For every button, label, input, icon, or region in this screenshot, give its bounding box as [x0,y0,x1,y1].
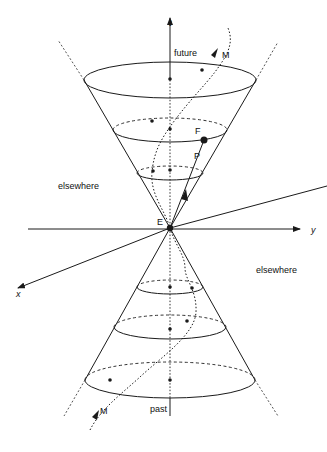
future-cone-left-edge [84,80,170,228]
worldline-bottom-arrow-icon [92,410,99,420]
dot [168,77,172,81]
dot [168,127,172,131]
event-e-label: E [157,217,163,227]
worldline-top-label: M [222,50,230,60]
x-axis [18,228,170,288]
past-label: past [150,404,168,414]
y-axis-label: y [310,225,316,235]
event-e-dot [167,225,173,231]
cone-extension-upper-right [256,42,278,80]
dot [168,378,172,382]
cone-extension-lower-right [255,380,278,416]
dot [185,319,189,323]
path-p-label: P [194,151,200,161]
dot [200,68,204,72]
x-axis-label: x [15,289,21,299]
dot [168,285,172,289]
dot [150,119,154,123]
past-cone-base-front [85,380,255,398]
point-f-dot [201,137,208,144]
x-axis-back [170,186,327,228]
past-cone-right-edge [170,228,255,380]
light-cone-diagram: t future M F P elsewhere E y elsewhere x… [0,0,327,452]
dot [190,286,194,290]
dot [168,327,172,331]
elsewhere-left-label: elsewhere [58,181,99,191]
past-cone-left-edge [85,228,170,380]
dot [168,168,172,172]
dot [151,169,155,173]
dot [108,378,112,382]
cone-extension-lower-left [64,380,85,416]
worldline-top-arrow-icon [211,48,218,58]
worldline-bottom-label: M [100,406,108,416]
elsewhere-right-label: elsewhere [256,265,297,275]
cone-extension-upper-left [58,40,84,80]
future-cone-right-edge [170,80,256,228]
point-f-label: F [195,126,201,136]
future-label: future [174,48,197,58]
t-axis-label: t [169,18,172,28]
